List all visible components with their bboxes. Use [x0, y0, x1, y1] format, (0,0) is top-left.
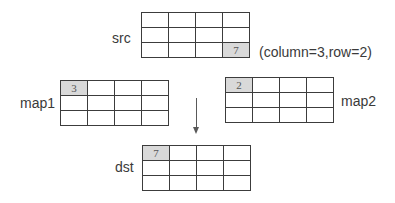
grid-cell — [224, 161, 251, 176]
src-annotation: (column=3,row=2) — [259, 45, 372, 59]
map2-highlight-cell: 2 — [226, 78, 253, 93]
grid-cell — [226, 93, 253, 108]
grid-cell — [142, 96, 169, 111]
grid-cell — [61, 96, 88, 111]
grid-row — [143, 161, 251, 176]
down-arrow-line — [196, 98, 197, 128]
grid-cell — [115, 81, 142, 96]
grid-cell — [224, 146, 251, 161]
grid-cell — [61, 111, 88, 126]
grid-cell — [197, 146, 224, 161]
grid-cell — [223, 13, 250, 28]
map1-highlight-cell: 3 — [61, 81, 88, 96]
down-arrow-icon — [193, 127, 199, 134]
map1-grid: 3 — [60, 80, 169, 126]
grid-cell — [143, 176, 170, 191]
grid-row: 7 — [143, 146, 251, 161]
grid-cell — [169, 28, 196, 43]
grid-row — [61, 111, 169, 126]
grid-cell — [280, 93, 307, 108]
grid-row: 7 — [142, 43, 250, 58]
grid-row — [142, 13, 250, 28]
grid-cell — [115, 96, 142, 111]
map2-label: map2 — [341, 94, 376, 108]
grid-cell — [88, 111, 115, 126]
map1-label: map1 — [20, 96, 55, 110]
grid-cell — [170, 146, 197, 161]
grid-cell — [253, 78, 280, 93]
grid-row — [226, 108, 334, 123]
grid-cell — [169, 13, 196, 28]
grid-cell — [280, 78, 307, 93]
grid-cell — [307, 93, 334, 108]
grid-cell — [196, 13, 223, 28]
dst-grid: 7 — [142, 145, 251, 191]
src-highlight-cell: 7 — [223, 43, 250, 58]
grid-cell — [142, 81, 169, 96]
grid-row — [142, 28, 250, 43]
src-grid: 7 — [141, 12, 250, 58]
grid-cell — [307, 78, 334, 93]
grid-row — [143, 176, 251, 191]
grid-cell — [253, 108, 280, 123]
grid-cell — [88, 96, 115, 111]
grid-cell — [280, 108, 307, 123]
grid-cell — [142, 28, 169, 43]
grid-cell — [307, 108, 334, 123]
grid-row — [61, 96, 169, 111]
dst-label: dst — [115, 160, 134, 174]
grid-cell — [115, 111, 142, 126]
grid-cell — [196, 43, 223, 58]
grid-cell — [88, 81, 115, 96]
src-label: src — [112, 31, 131, 45]
grid-cell — [224, 176, 251, 191]
grid-cell — [253, 93, 280, 108]
grid-cell — [142, 111, 169, 126]
grid-cell — [196, 28, 223, 43]
map2-grid: 2 — [225, 77, 334, 123]
grid-row: 3 — [61, 81, 169, 96]
grid-row: 2 — [226, 78, 334, 93]
grid-cell — [169, 43, 196, 58]
grid-cell — [170, 161, 197, 176]
grid-cell — [197, 161, 224, 176]
grid-cell — [223, 28, 250, 43]
grid-row — [226, 93, 334, 108]
dst-highlight-cell: 7 — [143, 146, 170, 161]
grid-cell — [142, 13, 169, 28]
grid-cell — [143, 161, 170, 176]
grid-cell — [197, 176, 224, 191]
grid-cell — [226, 108, 253, 123]
grid-cell — [170, 176, 197, 191]
grid-cell — [142, 43, 169, 58]
